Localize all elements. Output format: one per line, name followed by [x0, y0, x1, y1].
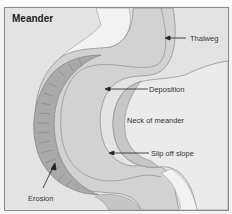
meander-diagram: Meander Thalweg Deposition Neck of meand… — [4, 7, 229, 211]
label-deposition: Deposition — [149, 85, 184, 94]
diagram-title: Meander — [12, 13, 53, 24]
label-thalweg: Thalweg — [190, 34, 218, 43]
label-erosion: Erosion — [28, 194, 53, 203]
top-strip — [0, 0, 232, 6]
label-slip-off-slope: Slip off slope — [151, 149, 194, 158]
label-neck-of-meander: Neck of meander — [127, 116, 184, 125]
